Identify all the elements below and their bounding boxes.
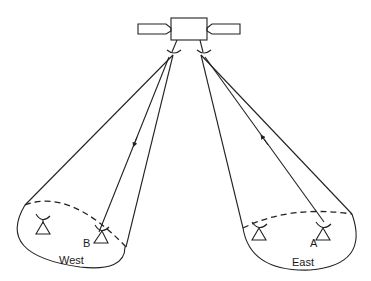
- west-beam-antenna-icon: [167, 50, 181, 53]
- signal-path-down: [99, 57, 169, 232]
- ground-station-icon: [252, 222, 267, 240]
- station-b-label: B: [83, 237, 90, 249]
- ground-station-a-icon: [316, 222, 331, 240]
- region-west-label: West: [59, 254, 84, 266]
- satellite-coverage-diagram: B West A East: [0, 0, 371, 281]
- east-beam-antenna-icon: [197, 50, 211, 53]
- east-beam-cone: [201, 55, 356, 270]
- ground-station-b-icon: [94, 225, 109, 243]
- west-beam-cone: [17, 55, 173, 268]
- ground-station-icon: [36, 214, 50, 234]
- station-a-label: A: [310, 237, 318, 249]
- signal-path-up: [205, 57, 324, 222]
- satellite-icon: [138, 18, 240, 53]
- region-east-label: East: [292, 256, 314, 268]
